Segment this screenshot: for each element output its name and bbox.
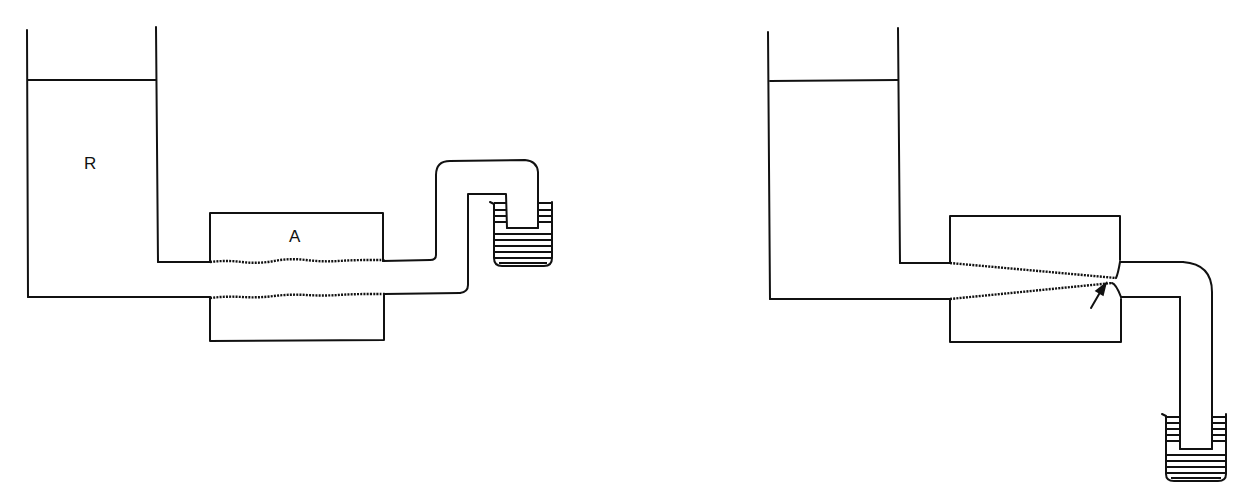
left-panel: [27, 27, 552, 341]
arrow-icon: [1091, 283, 1106, 308]
label-reservoir-r: R: [84, 154, 96, 174]
diagram-canvas: [0, 0, 1251, 498]
right-panel: [768, 28, 1226, 481]
siphon-tube-left: [383, 160, 538, 294]
block-tapered: [950, 216, 1121, 342]
label-block-a: A: [289, 227, 300, 247]
reservoir-right: [768, 28, 950, 299]
beaker-left: [490, 202, 552, 266]
reservoir-left: [27, 27, 210, 297]
beaker-right: [1162, 414, 1226, 481]
